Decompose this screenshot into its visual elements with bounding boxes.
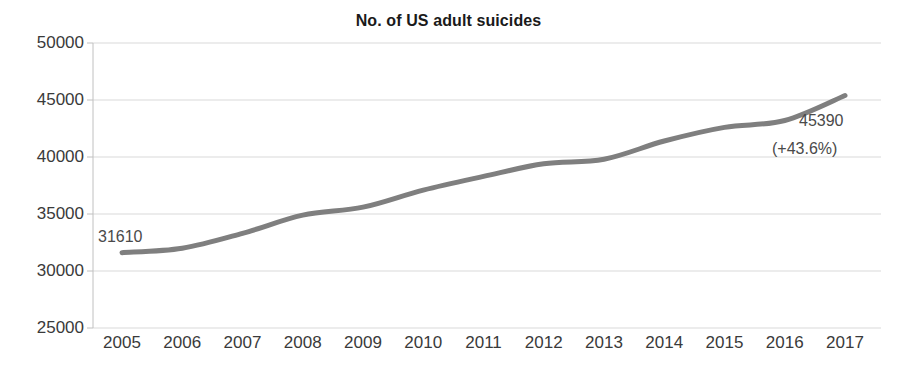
x-axis-tick-label: 2012 — [525, 333, 563, 353]
x-axis-tick-label: 2007 — [224, 333, 262, 353]
data-series-group — [122, 96, 845, 253]
x-axis-tick-label: 2009 — [344, 333, 382, 353]
plot-area — [0, 0, 897, 388]
y-axis-tick-label: 50000 — [12, 33, 84, 53]
x-axis-tick-label: 2008 — [284, 333, 322, 353]
x-axis-tick-label: 2006 — [163, 333, 201, 353]
x-axis-tick-label: 2010 — [404, 333, 442, 353]
x-axis-tick-label: 2013 — [585, 333, 623, 353]
x-axis-tick-label: 2016 — [766, 333, 804, 353]
y-axis-labels: 250003000035000400004500050000 — [6, 0, 84, 388]
x-axis-tick-label: 2015 — [706, 333, 744, 353]
x-axis-labels: 2005200620072008200920102011201220132014… — [0, 333, 897, 363]
gridlines-group — [93, 43, 881, 328]
y-tick-marks-group — [87, 43, 93, 328]
y-axis-tick-label: 45000 — [12, 90, 84, 110]
data-line-series — [122, 96, 845, 253]
percent-change-label: (+43.6%) — [772, 140, 837, 158]
x-axis-tick-label: 2014 — [645, 333, 683, 353]
last-value-label: 45390 — [799, 112, 844, 130]
x-axis-tick-label: 2017 — [826, 333, 864, 353]
y-axis-tick-label: 35000 — [12, 204, 84, 224]
chart-container: No. of US adult suicides 250003000035000… — [0, 0, 897, 388]
y-axis-tick-label: 40000 — [12, 147, 84, 167]
y-axis-tick-label: 30000 — [12, 261, 84, 281]
first-value-label: 31610 — [98, 228, 143, 246]
x-axis-tick-label: 2005 — [103, 333, 141, 353]
x-axis-tick-label: 2011 — [465, 333, 502, 353]
